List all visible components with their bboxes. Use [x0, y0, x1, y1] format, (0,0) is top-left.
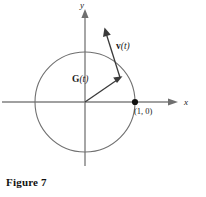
position-vector-argument: (t): [79, 74, 88, 85]
velocity-vector-argument: (t): [121, 41, 130, 52]
point-label-one-zero: (1, 0): [134, 106, 153, 116]
position-vector-shaft: [85, 79, 119, 102]
position-vector-label: G(t): [72, 74, 88, 85]
point-marker-one-zero: [132, 99, 138, 105]
y-axis-label: y: [79, 0, 84, 10]
x-axis-label: x: [183, 97, 188, 107]
velocity-vector-arrowhead: [103, 28, 111, 37]
y-axis-arrowhead: [81, 9, 88, 18]
velocity-vector-label: v(t): [116, 41, 130, 52]
figure-caption: Figure 7: [6, 176, 47, 188]
x-axis-arrowhead: [168, 98, 178, 105]
figure-container: y x G(t) v(t) (1, 0) Figure 7: [0, 0, 206, 197]
velocity-vector-shaft: [106, 33, 120, 78]
unit-circle-diagram: y x G(t) v(t) (1, 0): [0, 0, 206, 197]
